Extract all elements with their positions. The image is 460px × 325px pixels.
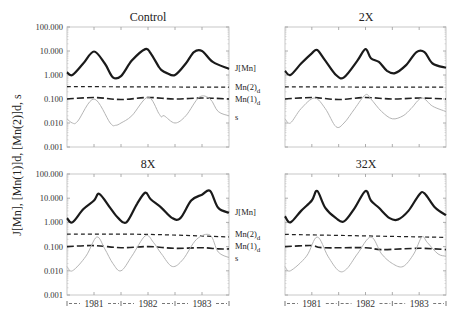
- svg-text:10.000: 10.000: [40, 193, 63, 203]
- y-axis-label: J[Mn], [Mn(1)]d, [Mn(2)]d, s: [10, 94, 24, 236]
- panel-title-8x: 8X: [141, 157, 156, 171]
- panel-title-control: Control: [130, 10, 167, 24]
- svg-text:10.000: 10.000: [40, 46, 63, 56]
- legend-jmn: J[Mn]: [235, 207, 256, 217]
- chart-figure: J[Mn], [Mn(1)]d, [Mn(2)]d, s Control 2X …: [0, 0, 460, 325]
- series-s: [67, 96, 229, 126]
- legend-mn1d: Mn(1)d: [235, 241, 261, 254]
- legend-bottom: J[Mn] Mn(2)d Mn(1)d s: [235, 207, 261, 263]
- svg-text:0.100: 0.100: [44, 242, 63, 252]
- svg-text:0.010: 0.010: [44, 266, 63, 276]
- svg-text:0.100: 0.100: [44, 94, 63, 104]
- svg-text:1.000: 1.000: [44, 70, 63, 80]
- series-mn-1-d: [285, 246, 446, 250]
- panel-32x: [285, 174, 446, 295]
- series-s: [285, 94, 446, 127]
- series-j-mn: [285, 49, 446, 78]
- y-ticks-top: 100.000 10.000 1.000 0.100 0.010 0.001: [35, 22, 63, 152]
- panel-2x: [285, 27, 446, 147]
- year-label: 1983: [193, 299, 212, 309]
- series-j-mn: [67, 49, 229, 79]
- y-ticks-bottom: 100.000 10.000 1.000 0.100 0.010 0.001: [35, 169, 63, 300]
- series-s: [67, 234, 229, 271]
- svg-text:100.000: 100.000: [35, 22, 63, 32]
- svg-text:0.001: 0.001: [44, 290, 63, 300]
- svg-text:1.000: 1.000: [44, 217, 63, 227]
- year-label: 1983: [410, 299, 429, 309]
- legend-jmn: J[Mn]: [235, 63, 256, 73]
- year-label: 1981: [302, 299, 321, 309]
- panel-8x: [67, 174, 229, 295]
- series-j-mn: [285, 191, 446, 223]
- panel-title-32x: 32X: [356, 157, 377, 171]
- panel-title-2x: 2X: [359, 10, 374, 24]
- svg-text:J[Mn], [Mn(1)]d, [Mn(2)]d, s: J[Mn], [Mn(1)]d, [Mn(2)]d, s: [10, 94, 24, 236]
- svg-text:0.001: 0.001: [44, 142, 63, 152]
- svg-text:100.000: 100.000: [35, 169, 63, 179]
- series-mn-1-d: [67, 98, 229, 100]
- year-label: 1982: [139, 299, 158, 309]
- year-label: 1982: [356, 299, 375, 309]
- legend-top: J[Mn] Mn(2)d Mn(1)d s: [235, 63, 261, 122]
- legend-mn1d: Mn(1)d: [235, 94, 261, 107]
- svg-text:0.010: 0.010: [44, 118, 63, 128]
- series-mn-2-d: [67, 87, 229, 88]
- legend-s: s: [235, 112, 238, 122]
- legend-s: s: [235, 253, 238, 263]
- year-label: 1981: [85, 299, 104, 309]
- panel-control: [67, 27, 229, 147]
- series-s: [285, 237, 446, 272]
- x-axis-years-left: 198119821983: [67, 299, 229, 309]
- x-axis-years-right: 198119821983: [285, 299, 446, 309]
- series-j-mn: [67, 190, 229, 223]
